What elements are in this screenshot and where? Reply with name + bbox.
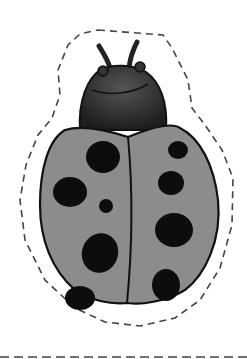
spot [86,141,120,173]
antenna-left [99,46,110,68]
ladybug-head [80,66,167,130]
spot [53,177,87,207]
eye-right [135,62,145,72]
ladybug-illustration [0,0,247,359]
spot [168,141,188,159]
spot [155,213,193,247]
eye-left [98,66,108,76]
spot [99,199,113,213]
spot [158,171,184,195]
spot [152,269,180,301]
spot [65,286,95,310]
